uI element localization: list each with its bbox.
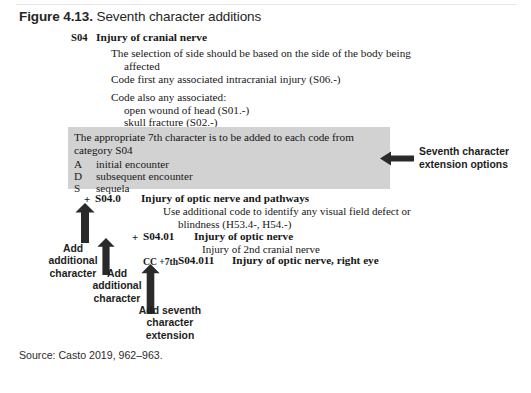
- category-note-line-3: Code first any associated intracranial i…: [111, 74, 341, 85]
- category-code-s04: S04: [71, 33, 88, 44]
- category-title-s04: Injury of cranial nerve: [96, 32, 207, 43]
- seventh-character-option-letter-a: A: [74, 158, 82, 170]
- seventh-character-option-letter-s: S: [74, 182, 80, 194]
- annotation-add-additional-character-2: Addadditionalcharacter: [80, 268, 154, 305]
- seventh-character-box: The appropriate 7th character is to be a…: [68, 127, 390, 189]
- figure-caption: Figure 4.13. Seventh character additions: [19, 9, 261, 24]
- code-plus-marker-2: +: [132, 232, 138, 243]
- arrow-up-icon-1: [75, 203, 95, 243]
- category-note-line-5: open wound of head (S01.-): [124, 105, 249, 116]
- category-note-line-4: Code also any associated:: [111, 92, 226, 103]
- code-s04-0: S04.0: [95, 193, 121, 204]
- figure-caption-text: Seventh character additions: [93, 9, 261, 24]
- code-description-s04-0: Injury of optic nerve and pathways: [141, 193, 309, 204]
- figure-caption-number: Figure 4.13.: [19, 9, 93, 24]
- code-note-s04-0-line-1: Use additional code to identify any visu…: [163, 206, 411, 217]
- seventh-character-option-meaning-d: subsequent encounter: [96, 170, 193, 182]
- seventh-character-intro-line-2: category S04: [74, 145, 133, 156]
- code-s04-01: S04.01: [143, 231, 174, 242]
- category-note-line-1: The selection of side should be based on…: [111, 48, 411, 59]
- category-note-line-2: affected: [124, 61, 160, 72]
- annotation-add-seventh-character-extension: Add seventhcharacterextension: [118, 305, 222, 342]
- seventh-character-option-letter-d: D: [74, 170, 82, 182]
- seventh-character-option-meaning-a: initial encounter: [96, 158, 169, 170]
- figure-container: Figure 4.13. Seventh character additions…: [0, 0, 531, 393]
- code-s04-011: S04.011: [178, 255, 214, 266]
- seventh-character-intro-line-1: The appropriate 7th character is to be a…: [74, 132, 354, 143]
- code-description-s04-011: Injury of optic nerve, right eye: [232, 255, 379, 266]
- annotation-seventh-character-options: Seventh characterextension options: [419, 146, 509, 171]
- code-description-s04-01: Injury of optic nerve: [194, 231, 293, 242]
- arrow-left-icon: [380, 151, 414, 166]
- figure-source: Source: Casto 2019, 962–963.: [19, 349, 163, 361]
- top-rule-divider: [16, 4, 516, 5]
- code-note-s04-0-line-2: blindness (H53.4-, H54.-): [178, 219, 291, 230]
